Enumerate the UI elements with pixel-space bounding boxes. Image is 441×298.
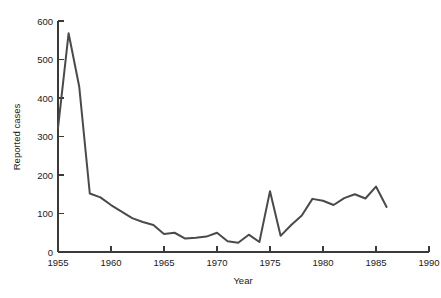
y-tick-group — [58, 21, 64, 252]
y-tick-label: 0 — [48, 247, 53, 258]
y-tick-label: 300 — [37, 131, 53, 142]
x-tick-label: 1955 — [47, 257, 68, 268]
x-tick-label: 1960 — [100, 257, 121, 268]
y-tick-label: 100 — [37, 208, 53, 219]
x-tick-label: 1990 — [418, 257, 439, 268]
y-tick-label: 200 — [37, 170, 53, 181]
y-tick-label: 600 — [37, 16, 53, 27]
x-tick-label: 1980 — [312, 257, 333, 268]
y-tick-labels: 600 500 400 300 200 100 0 — [37, 16, 53, 258]
y-tick-label: 400 — [37, 93, 53, 104]
y-tick-label: 500 — [37, 54, 53, 65]
line-chart-canvas: 600 500 400 300 200 100 0 1955 1960 1965… — [0, 0, 441, 298]
x-axis-title: Year — [233, 275, 252, 286]
x-tick-label: 1965 — [153, 257, 174, 268]
x-tick-label: 1985 — [365, 257, 386, 268]
x-tick-label: 1970 — [206, 257, 227, 268]
x-tick-label: 1975 — [259, 257, 280, 268]
x-tick-group — [58, 246, 429, 252]
data-series-line — [58, 33, 387, 242]
chart-figure: 600 500 400 300 200 100 0 1955 1960 1965… — [0, 0, 441, 298]
y-axis-title: Reported cases — [11, 103, 22, 170]
x-tick-labels: 1955 1960 1965 1970 1975 1980 1985 1990 — [47, 257, 439, 268]
axis-group — [58, 21, 429, 252]
